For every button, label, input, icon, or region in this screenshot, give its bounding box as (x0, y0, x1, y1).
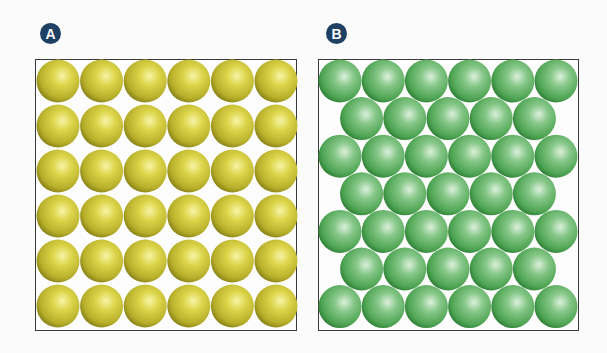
sphere-a (167, 240, 210, 283)
sphere-a (167, 105, 210, 148)
sphere-b (491, 285, 534, 328)
sphere-b (470, 248, 513, 291)
sphere-b (319, 285, 362, 328)
sphere-a (124, 60, 167, 103)
sphere-b (513, 248, 556, 291)
sphere-b (427, 172, 470, 215)
sphere-b (362, 285, 405, 328)
sphere-a (37, 240, 80, 283)
sphere-a (80, 150, 123, 193)
sphere-a (124, 105, 167, 148)
sphere-a (167, 60, 210, 103)
sphere-a (211, 60, 254, 103)
sphere-b (427, 248, 470, 291)
sphere-a (167, 195, 210, 238)
sphere-b (405, 285, 448, 328)
sphere-a (124, 240, 167, 283)
sphere-b (448, 285, 491, 328)
sphere-b (448, 60, 491, 103)
sphere-a (124, 150, 167, 193)
sphere-b (383, 97, 426, 140)
sphere-packing-diagram (0, 0, 607, 353)
panel-a-spheres (37, 60, 298, 328)
sphere-b (427, 97, 470, 140)
sphere-b (383, 248, 426, 291)
sphere-a (124, 195, 167, 238)
sphere-b (405, 135, 448, 178)
sphere-b (362, 60, 405, 103)
sphere-b (470, 172, 513, 215)
sphere-b (535, 60, 578, 103)
sphere-a (255, 240, 298, 283)
sphere-b (383, 172, 426, 215)
sphere-a (255, 105, 298, 148)
sphere-b (491, 210, 534, 253)
sphere-a (255, 60, 298, 103)
sphere-a (211, 105, 254, 148)
sphere-b (340, 172, 383, 215)
panel-b-spheres (319, 60, 578, 329)
sphere-a (37, 60, 80, 103)
sphere-a (211, 150, 254, 193)
sphere-a (255, 195, 298, 238)
sphere-b (319, 210, 362, 253)
sphere-a (255, 150, 298, 193)
sphere-a (211, 240, 254, 283)
sphere-a (80, 105, 123, 148)
sphere-a (80, 195, 123, 238)
sphere-b (362, 135, 405, 178)
sphere-b (362, 210, 405, 253)
sphere-b (340, 248, 383, 291)
sphere-b (491, 135, 534, 178)
sphere-b (470, 97, 513, 140)
sphere-b (448, 210, 491, 253)
sphere-a (124, 285, 167, 328)
sphere-a (211, 195, 254, 238)
sphere-a (37, 195, 80, 238)
sphere-b (319, 60, 362, 103)
sphere-b (535, 210, 578, 253)
sphere-a (167, 150, 210, 193)
sphere-b (491, 60, 534, 103)
sphere-b (535, 135, 578, 178)
sphere-b (405, 210, 448, 253)
sphere-b (513, 97, 556, 140)
sphere-b (319, 135, 362, 178)
sphere-a (37, 150, 80, 193)
sphere-a (167, 285, 210, 328)
sphere-b (340, 97, 383, 140)
sphere-a (37, 105, 80, 148)
sphere-a (80, 285, 123, 328)
sphere-b (513, 172, 556, 215)
sphere-a (211, 285, 254, 328)
sphere-a (37, 285, 80, 328)
sphere-a (255, 285, 298, 328)
sphere-b (405, 60, 448, 103)
sphere-b (535, 285, 578, 328)
sphere-b (448, 135, 491, 178)
sphere-a (80, 60, 123, 103)
sphere-a (80, 240, 123, 283)
